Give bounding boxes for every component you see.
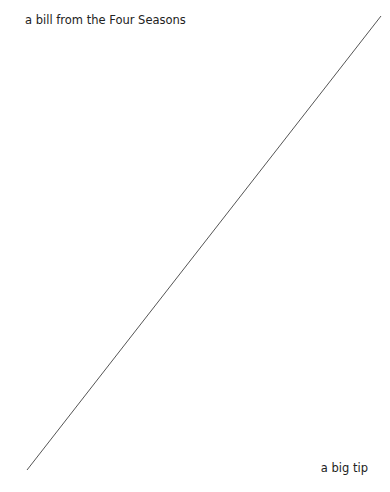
diagonal-line-canvas [0,0,390,492]
diagonal-line [27,16,381,470]
bottom-right-label: a big tip [321,461,368,475]
